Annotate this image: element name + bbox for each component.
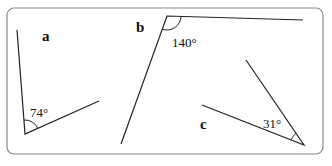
angle-c: c 31°	[200, 60, 304, 145]
angle-a-arc	[24, 120, 38, 128]
angle-c-arc	[291, 133, 296, 140]
angle-a-label: a	[42, 28, 50, 44]
angle-c-arms	[202, 60, 304, 145]
angle-c-degree: 31°	[263, 116, 281, 131]
angle-b-label: b	[136, 19, 144, 35]
angle-a: a 74°	[17, 28, 99, 134]
angle-c-label: c	[200, 116, 207, 132]
angle-b-degree: 140°	[172, 35, 197, 50]
angle-a-degree: 74°	[30, 105, 48, 120]
angle-b-arc	[162, 16, 181, 30]
angles-diagram: a 74° b 140° c 31°	[0, 0, 332, 166]
